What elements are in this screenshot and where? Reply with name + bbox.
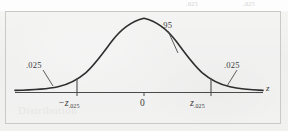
axis-tick-label-positive-critical: z.025: [190, 97, 205, 108]
axis-tick-label-negative-critical: −z.025: [58, 97, 80, 108]
neg-z-symbol: −z: [58, 97, 69, 108]
ghost-fragment-top-left: .025: [186, 1, 198, 7]
left-tail-probability-label: .025: [26, 60, 42, 70]
axis-tick-label-zero: 0: [140, 98, 145, 108]
figure-root: .025 .025 Distribution .025 .025 .95 0: [0, 0, 288, 131]
right-tail-probability-label: .025: [224, 60, 240, 70]
x-axis-variable-label: z: [266, 83, 270, 93]
center-probability-label: .95: [161, 20, 172, 30]
page-bleed-top: .025 .025: [0, 0, 288, 11]
neg-z-subscript: .025: [69, 103, 80, 109]
ghost-fragment-top-right: .025: [243, 1, 255, 7]
pos-z-subscript: .025: [194, 103, 205, 109]
